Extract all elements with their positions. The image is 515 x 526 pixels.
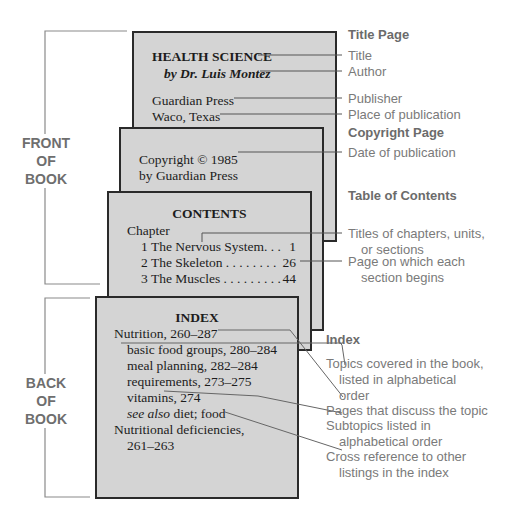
label-titles-1: Titles of chapters, units,	[348, 226, 485, 242]
leader-titles	[202, 233, 342, 242]
label-sub-2: alphabetical order	[339, 434, 442, 450]
leader-topics	[121, 343, 345, 365]
leader-subtopics	[164, 391, 342, 413]
label-page-2: section begins	[361, 270, 444, 286]
label-title-page-heading: Title Page	[348, 27, 409, 42]
label-cross-1: Cross reference to other	[326, 449, 466, 465]
label-title: Title	[348, 48, 372, 64]
label-index-heading: Index	[326, 332, 360, 347]
label-page-1: Page on which each	[348, 254, 465, 270]
leader-pages	[218, 330, 343, 397]
leader-cross-ref	[225, 412, 342, 450]
label-copyright-heading: Copyright Page	[348, 125, 444, 140]
label-topics-2: listed in alphabetical	[339, 372, 456, 388]
label-toc-heading: Table of Contents	[348, 188, 457, 203]
label-topics-3: order	[339, 388, 369, 404]
label-author: Author	[348, 64, 386, 80]
label-topics-1: Topics covered in the book,	[326, 356, 484, 372]
label-sub-1: Subtopics listed in	[326, 418, 431, 434]
label-pages: Pages that discuss the topic	[326, 403, 488, 419]
label-date: Date of publication	[348, 145, 456, 161]
label-place: Place of publication	[348, 107, 461, 123]
label-cross-2: listings in the index	[339, 465, 449, 481]
label-publisher: Publisher	[348, 91, 402, 107]
